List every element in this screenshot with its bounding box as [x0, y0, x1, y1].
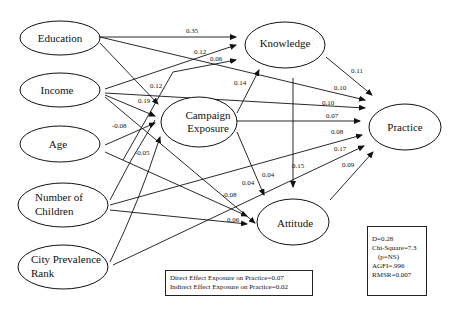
indirect-effect-text: Indirect Effect Exposure on Practice=0.0… — [170, 283, 308, 292]
label-children-1: Number of — [35, 191, 83, 203]
coef-income-campaign: 0.19 — [138, 97, 151, 105]
fit-rmsr: RMSR=0.007 — [372, 271, 422, 280]
coef-income-practice: 0.10 — [322, 99, 335, 107]
fit-d: D=0.28 — [372, 235, 422, 244]
coef-attitude-practice: 0.09 — [342, 161, 355, 169]
coef-age-campaign: -0.08 — [112, 122, 127, 130]
coef-children-attitude: 0.06 — [227, 216, 240, 224]
label-age: Age — [49, 138, 67, 150]
coef-city-campaign: -0.05 — [135, 149, 150, 157]
label-city-2: Rank — [31, 267, 55, 279]
label-practice: Practice — [387, 121, 423, 133]
coef-age-attitude: -0.08 — [222, 191, 237, 199]
coef-city-practice: 0.17 — [334, 145, 347, 153]
model-fit-box: D=0.28 Chi-Square=7.3 (p=NS) AGFI=.996 R… — [367, 226, 427, 296]
fit-agfi: AGFI=.996 — [372, 262, 422, 271]
fit-p: (p=NS) — [372, 253, 422, 262]
label-attitude: Attitude — [277, 217, 313, 229]
coef-children-practice: 0.08 — [331, 128, 344, 136]
coef-income-knowledge: 0.12 — [194, 48, 207, 56]
label-city-1: City Prevalence — [31, 253, 101, 265]
effects-summary-box: Direct Effect Exposure on Practice=0.07 … — [165, 270, 313, 296]
coef-edu-practice: 0.10 — [334, 84, 347, 92]
fit-chi-square: Chi-Square=7.3 — [372, 244, 422, 253]
coef-edu-knowledge: 0.35 — [186, 27, 199, 35]
label-campaign-1: Campaign — [185, 109, 231, 121]
label-knowledge: Knowledge — [260, 37, 311, 49]
coef-knowledge-attitude: 0.15 — [292, 162, 305, 170]
coef-income-attitude: 0.04 — [242, 179, 255, 187]
coef-campaign-attitude: 0.04 — [262, 171, 275, 179]
label-children-2: Children — [35, 205, 74, 217]
label-education: Education — [38, 32, 83, 44]
coef-campaign-knowledge-006: 0.06 — [210, 55, 223, 63]
label-campaign-2: Exposure — [187, 122, 229, 134]
coef-edu-campaign: 0.12 — [150, 82, 163, 90]
coef-campaign-knowledge-014: 0.14 — [234, 79, 247, 87]
label-income: Income — [41, 84, 74, 96]
coef-knowledge-practice: 0.11 — [351, 67, 363, 75]
coef-campaign-practice: 0.07 — [326, 112, 339, 120]
direct-effect-text: Direct Effect Exposure on Practice=0.07 — [170, 274, 308, 283]
